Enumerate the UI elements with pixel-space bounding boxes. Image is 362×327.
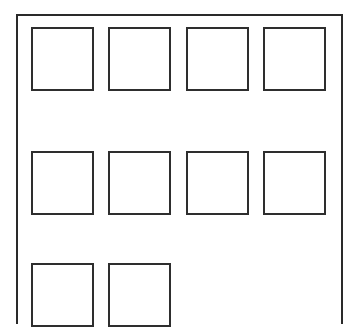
grid-cell-r1-c2 — [108, 27, 171, 91]
grid-cell-r1-c1 — [31, 27, 94, 91]
grid-cell-r2-c3 — [186, 151, 249, 215]
grid-cell-r1-c4 — [263, 27, 326, 91]
grid-cell-r2-c4 — [263, 151, 326, 215]
grid-cell-r1-c3 — [186, 27, 249, 91]
grid-cell-r2-c1 — [31, 151, 94, 215]
grid-cell-r2-c2 — [108, 151, 171, 215]
grid-cell-r3-c2 — [108, 263, 171, 327]
grid-cell-r3-c1 — [31, 263, 94, 327]
